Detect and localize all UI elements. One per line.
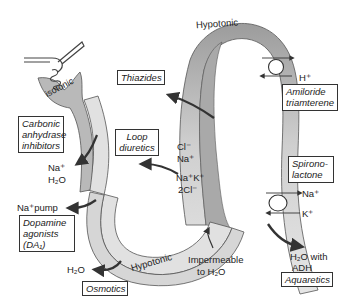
amiloride-line2: triamterene [286,97,334,108]
ion-loop-2cl: 2Cl⁻ [178,184,197,195]
aquaretics-label: Aquaretics [285,274,329,285]
ion-desc-h2o: H₂O [67,264,85,275]
amiloride-line1: Amiloride [286,86,334,97]
impermeable-label-line2: to H₂O [197,266,226,277]
spirono-line1: Spirono- [292,158,330,169]
ion-pt-h2o: H₂O [48,174,66,185]
ion-dct-na: Na⁺ [177,153,194,164]
box-spironolactone: Spirono- lactone [288,156,334,183]
dopamine-line1: Dopamine [23,217,71,228]
dopamine-line3: (DA₁) [23,239,71,250]
ion-cd-k: K⁺ [302,208,313,219]
ion-pt-na: Na⁺ [48,162,65,173]
box-amiloride-triamterene: Amiloride triamterene [282,84,338,111]
ion-loop-nak: Na⁺K⁺ [176,172,204,183]
thiazides-label: Thiazides [121,72,161,83]
thick-ascending-limb [200,42,230,228]
afferent-arteriole [24,42,84,72]
impermeable-label-line1: Impermeable [188,254,243,265]
ion-cd-na: Na⁺ [302,188,319,199]
ion-na-pump: Na⁺pump [17,202,58,213]
na-k-pump [269,195,287,211]
ion-cd-h2o-adh-line1: H₂O with [290,251,327,262]
box-osmotics: Osmotics [82,281,128,296]
carbonic-line3: inhibitors [22,140,60,151]
box-dopamine-agonists: Dopamine agonists (DA₁) [19,215,75,252]
box-thiazides: Thiazides [117,70,165,85]
box-loop-diuretics: Loop diuretics [115,129,159,156]
h-pump [269,60,284,75]
loop-line1: Loop [119,131,155,142]
carbonic-line1: Carbonic [22,118,60,129]
dopamine-line2: agonists [23,228,71,239]
arrow-loop [145,164,178,174]
box-carbonic-anhydrase-inhibitors: Carbonic anhydrase inhibitors [18,116,64,153]
box-aquaretics: Aquaretics [281,272,333,287]
ion-dct-cl: Cl⁻ [177,141,191,152]
nephron-diagram: isotonic Hypotonic Hypotonic Na⁺ H₂O Na⁺… [0,0,352,308]
osmotics-label: Osmotics [86,283,124,294]
ion-cd-h: H⁺ [299,72,311,83]
loop-line2: diuretics [119,142,155,153]
spirono-line2: lactone [292,169,330,180]
carbonic-line2: anhydrase [22,129,60,140]
